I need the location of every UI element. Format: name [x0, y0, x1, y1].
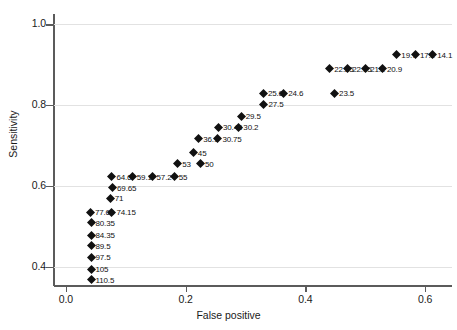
y-tick-mark: [46, 105, 53, 106]
y-tick-mark: [46, 24, 53, 25]
data-point: 55: [174, 168, 188, 186]
y-axis-title: Sensitivity: [7, 74, 19, 194]
data-point: 24.6: [283, 84, 303, 102]
plot-area: 19.717.214.122.2522.1521.220.925.624.623…: [54, 14, 452, 285]
x-tick-label: 0.0: [46, 293, 86, 305]
data-point: 110.5: [91, 271, 115, 289]
data-point: 50: [200, 155, 214, 173]
x-tick-mark: [305, 286, 306, 292]
y-tick-label: 1.0: [10, 17, 46, 29]
x-axis-title: False positive: [0, 309, 457, 321]
roc-scatter-figure: Sensitivity False positive 0.40.60.81.0 …: [0, 0, 457, 330]
gridline-y: [54, 24, 452, 25]
y-tick-mark: [46, 267, 53, 268]
data-point: 57.2: [152, 168, 172, 186]
data-point: 27.5: [263, 95, 283, 113]
data-point: 14.1: [432, 45, 452, 63]
data-point: 23.5: [334, 84, 354, 102]
y-tick-label: 0.6: [10, 179, 46, 191]
y-tick-label: 0.8: [10, 98, 46, 110]
gridline-y: [54, 105, 452, 106]
x-tick-label: 0.2: [166, 293, 206, 305]
data-point: 30.75: [217, 130, 241, 148]
gridline-y: [54, 267, 452, 268]
data-point: 74.15: [111, 203, 135, 221]
data-point: 20.9: [382, 60, 402, 78]
x-tick-mark: [425, 286, 426, 292]
x-tick-label: 0.6: [405, 293, 445, 305]
x-tick-mark: [66, 286, 67, 292]
y-tick-label: 0.4: [10, 260, 46, 272]
x-tick-label: 0.4: [285, 293, 325, 305]
x-tick-mark: [186, 286, 187, 292]
y-tick-mark: [46, 186, 53, 187]
